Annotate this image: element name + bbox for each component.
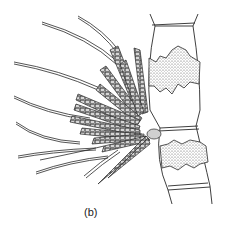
host-filament: [149, 14, 212, 204]
panel-label: (b): [84, 206, 97, 218]
epiphyte-thallus: [70, 46, 161, 184]
chloroplast-lower: [160, 140, 208, 170]
illustration: [0, 0, 226, 231]
chloroplast-upper: [149, 46, 200, 94]
